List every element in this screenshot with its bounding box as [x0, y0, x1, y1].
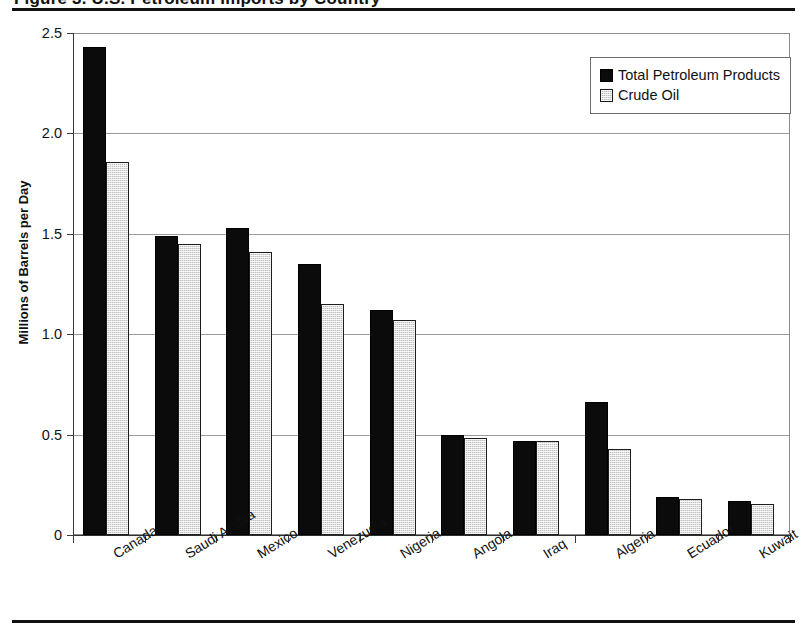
- bar: [370, 310, 393, 535]
- chart-legend: Total Petroleum Products Crude Oil: [590, 57, 791, 114]
- y-axis-tick: [67, 133, 74, 134]
- y-axis-tick-label: 1.0: [42, 327, 62, 342]
- x-axis-label: Angola: [469, 548, 477, 562]
- bar: [464, 438, 487, 535]
- bar: [298, 264, 321, 535]
- y-axis-title: Millions of Barrels per Day: [16, 148, 31, 378]
- bar: [441, 435, 464, 535]
- y-axis-tick: [67, 33, 74, 34]
- bar: [155, 236, 178, 535]
- x-axis-label: Iraq: [540, 548, 548, 562]
- x-axis-tick: [73, 535, 74, 543]
- bar: [321, 304, 344, 535]
- x-axis-tick: [575, 535, 576, 543]
- x-axis-label: Saudi Arabia: [182, 548, 190, 562]
- bar: [106, 162, 129, 535]
- y-axis-tick: [67, 435, 74, 436]
- bar: [393, 320, 416, 535]
- legend-item-crude-oil[interactable]: Crude Oil: [600, 85, 780, 105]
- y-axis-tick-label: 0.5: [42, 428, 62, 443]
- y-axis-tick-label: 2.0: [42, 126, 62, 141]
- legend-swatch-icon-crude-oil: [600, 89, 613, 102]
- bar: [679, 499, 702, 535]
- y-axis-tick-label: 0: [54, 528, 62, 543]
- bar: [585, 402, 608, 535]
- bar: [608, 449, 631, 535]
- legend-label: Crude Oil: [618, 88, 679, 103]
- bar: [536, 441, 559, 535]
- legend-label: Total Petroleum Products: [618, 68, 780, 83]
- x-axis-label: Venezuela: [325, 548, 333, 562]
- bar: [178, 244, 201, 535]
- bar-chart: 00.51.01.52.02.5 Millions of Barrels per…: [0, 0, 807, 633]
- y-axis-tick-label: 2.5: [42, 26, 62, 41]
- page-rule-bottom: [12, 620, 795, 623]
- bar: [83, 47, 106, 535]
- x-axis-label: Algeria: [612, 548, 620, 562]
- y-axis-tick-label: 1.5: [42, 227, 62, 242]
- bar: [656, 497, 679, 535]
- legend-item-total-petroleum-products[interactable]: Total Petroleum Products: [600, 65, 780, 85]
- y-axis-tick: [67, 234, 74, 235]
- bar: [513, 441, 536, 535]
- x-axis-label: Kuwait: [756, 548, 764, 562]
- bar: [249, 252, 272, 535]
- x-axis-label: Nigeria: [397, 548, 405, 562]
- x-axis-label: Ecuador: [684, 548, 692, 562]
- legend-swatch-icon-total-petroleum-products: [600, 69, 613, 82]
- bar: [226, 228, 249, 535]
- x-axis-label: Mexico: [254, 548, 262, 562]
- bar: [751, 504, 774, 535]
- x-axis-label: Canada: [110, 548, 118, 562]
- y-axis-tick: [67, 334, 74, 335]
